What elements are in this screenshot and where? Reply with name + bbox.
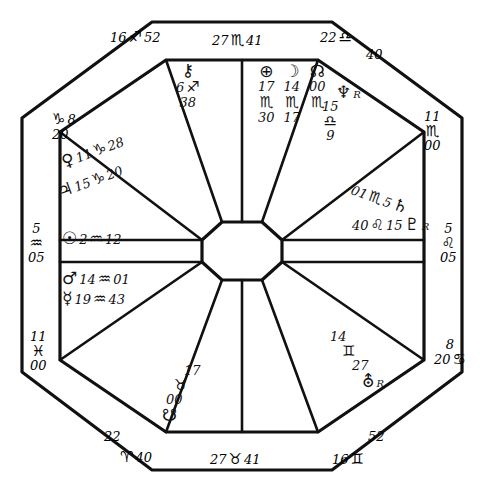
part-of-fortune-icon: ⊕ [259,62,273,80]
cusp-bottom-left-degree: 22 [104,430,121,443]
taurus-icon: ♉ [229,452,242,467]
gemini-icon: ♊ [351,452,364,467]
cancer-icon: ♋ [453,352,466,368]
scorpio-icon: ♏ [424,124,441,140]
placement-uranus: 14 ♊ 27 ⛢ R [330,330,384,391]
cusp-minute: 20 [434,353,451,367]
gemini-icon: ♊ [342,344,355,360]
sun-minute: 12 [105,232,122,247]
descendant-minute: 05 [440,251,457,265]
cusp-degree: 16 [110,31,127,44]
placement-mercury: ☿ 19 ♒ 43 [62,288,125,308]
part-fortune-degree: 17 [258,80,275,94]
mercury-degree: 19 [74,292,91,307]
cusp-minute: 00 [424,139,441,153]
mars-degree: 14 [79,272,96,287]
aquarius-icon: ♒ [28,236,45,252]
house-spoke-5 [262,280,318,432]
moon-minute: 17 [284,111,301,125]
aquarius-icon: ♒ [93,290,106,308]
cusp-degree: 8 [67,113,75,127]
cusp-bottom-right: 16 ♊ [332,452,364,467]
cusp-top-left: 16 ♐ 52 [110,30,161,45]
placement-saturn: 01 ♏ 5 ♄ [352,178,412,198]
placement-sun: ☉ 2 ♒ 12 [62,228,122,248]
pluto-degree: 15 [386,218,403,233]
cusp-bottom-left: ♈ 40 [120,450,152,465]
natal-chart: 16 ♐ 52 27 ♏ 41 22 ♎ 40 ♑ 8 20 11 ♏ 00 5… [0,0,484,497]
cusp-minute: 52 [144,31,161,44]
cusp-ascendant: 5 ♒ 05 [28,222,45,265]
mars-minute: 01 [113,272,130,287]
libra-icon: ♎ [324,114,337,130]
pisces-icon: ♓ [30,344,47,360]
scorpio-icon: ♏ [260,94,273,110]
cusp-lower-right: 8 20 ♋ [434,338,466,367]
cusp-top-mid: 27 ♏ 41 [212,33,263,48]
north-node-degree: 00 [309,80,326,94]
placement-moon: ☽ 14 ♏ 17 [284,62,301,125]
pluto-icon: ♇ [405,214,420,234]
center-octagon [202,222,282,280]
placement-group-mc: ⊕ 17 ♏ 30 ☽ 14 ♏ 17 ☊ 00 ♏ [258,62,326,125]
placement-part-fortune: ⊕ 17 ♏ 30 [258,62,275,125]
placement-neptune: ♆ R [336,82,361,102]
placement-pluto: 40 ♌ 15 ♇ R [352,214,429,234]
uranus-icon: ⛢ [362,373,374,391]
placement-neptune-position: 15 ♎ 9 [322,100,339,143]
retrograde-icon: R [422,221,430,232]
retrograde-icon: R [376,379,384,390]
aries-icon: ♈ [120,450,133,465]
cusp-degree: 22 [320,31,337,44]
placement-south-node: 17 ♉ 00 ☋ [166,364,201,425]
cusp-upper-left: ♑ 8 20 [52,112,76,141]
pluto-minute: 40 [352,218,369,233]
leo-icon: ♌ [440,236,457,252]
placement-mars: ♂ 14 ♒ 01 [62,268,130,288]
cusp-top-right: 22 ♎ [320,30,352,45]
moon-degree: 14 [284,80,301,94]
scorpio-icon: ♏ [285,94,298,110]
jupiter-degree: 15 [72,175,93,195]
cusp-upper-right: 11 ♏ 00 [424,110,441,153]
cusp-minute: 00 [30,359,47,373]
part-fortune-minute: 30 [258,111,275,125]
chart-linework [0,0,484,497]
cusp-degree: 27 [212,34,229,47]
north-node-icon: ☊ [310,62,325,80]
mars-icon: ♂ [62,268,77,288]
chiron-minute: 38 [180,96,197,110]
scorpio-icon: ♏ [231,33,244,48]
cusp-descendant: 5 ♌ 05 [440,222,457,265]
south-node-icon: ☋ [162,407,177,425]
retrograde-icon: R [353,89,361,100]
capricorn-icon: ♑ [52,112,65,128]
moon-icon: ☽ [284,62,299,80]
cusp-degree: 27 [210,453,227,466]
aquarius-icon: ♒ [98,270,111,288]
mercury-minute: 43 [108,292,125,307]
mercury-icon: ☿ [62,288,72,308]
placement-jupiter: ♃ 15 ♑ 20 [58,182,126,202]
cusp-bottom-right-minute: 52 [368,430,385,443]
taurus-icon: ♉ [174,378,187,394]
cusp-top-right-minute: 40 [366,48,383,61]
sun-icon: ☉ [62,228,77,248]
cusp-lower-left: 11 ♓ 00 [30,330,47,373]
neptune-minute: 9 [326,129,334,143]
placement-chiron: ⚷ 6 ♐ 38 [176,62,200,109]
sun-degree: 2 [79,232,87,247]
cusp-bottom-mid: 27 ♉ 41 [210,452,261,467]
leo-icon: ♌ [371,216,384,234]
sagittarius-icon: ♐ [129,30,142,45]
cusp-degree: 16 [332,453,349,466]
cusp-minute: 41 [246,34,263,47]
cusp-minute: 40 [135,451,152,464]
chiron-degree: 6 [176,81,184,95]
aquarius-icon: ♒ [90,230,103,248]
venus-degree: 11 [74,146,95,166]
cusp-minute: 41 [244,453,261,466]
libra-icon: ♎ [339,30,352,45]
sagittarius-icon: ♐ [186,80,199,96]
ascendant-minute: 05 [28,251,45,265]
